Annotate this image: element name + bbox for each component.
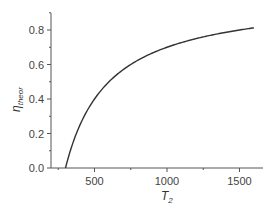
x-axis-title: T2	[161, 189, 173, 205]
y-tick-label: 0.4	[29, 93, 44, 105]
y-axis-title: ηtheor	[9, 87, 25, 112]
data-line	[66, 28, 255, 168]
axes: 0.00.20.40.60.850010001500	[29, 13, 263, 187]
x-tick-label: 1000	[155, 175, 179, 187]
y-tick-label: 0.8	[29, 24, 44, 36]
x-tick-label: 500	[85, 175, 103, 187]
x-tick-label: 1500	[227, 175, 251, 187]
y-tick-label: 0.6	[29, 59, 44, 71]
y-tick-label: 0.2	[29, 128, 44, 140]
chart: 0.00.20.40.60.850010001500 T2 ηtheor	[0, 0, 279, 213]
y-tick-label: 0.0	[29, 162, 44, 174]
